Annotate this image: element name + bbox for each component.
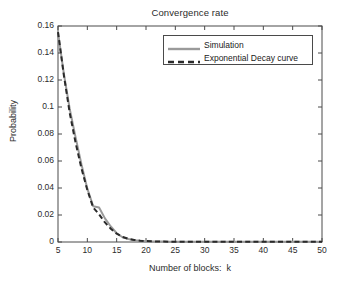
legend-item-simulation: Simulation [167,39,309,51]
legend-swatch-dashed-line [167,53,201,63]
legend-swatch-solid-line [167,40,201,50]
legend-item-exponential-decay: Exponential Decay curve [167,52,309,64]
legend-label-simulation: Simulation [204,40,244,50]
legend-label-exponential-decay: Exponential Decay curve [204,53,298,63]
chart-figure: Convergence rate Probability 00.020.040.… [0,0,343,286]
chart-legend: Simulation Exponential Decay curve [163,35,313,65]
